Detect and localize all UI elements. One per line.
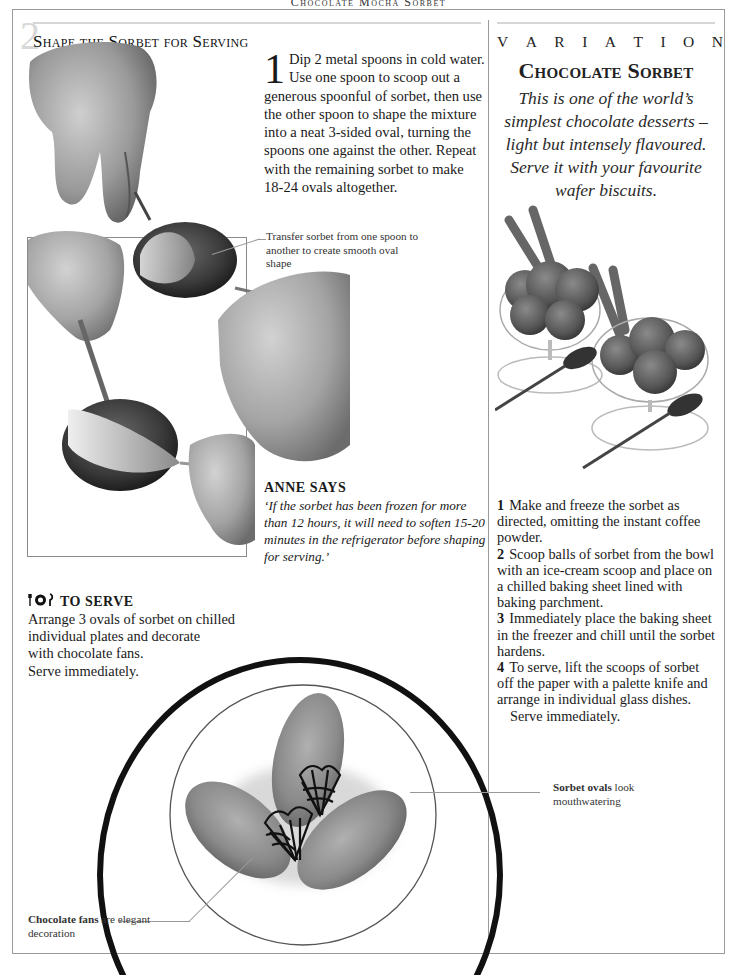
variation-letter: T <box>633 33 642 51</box>
anne-says-quote: ‘If the sorbet has been frozen for more … <box>264 497 489 565</box>
variation-letter: A <box>526 33 537 51</box>
step-instruction: 1 Dip 2 metal spoons in cold water. Use … <box>264 50 486 196</box>
variation-step: 4To serve, lift the scoops of sorbet off… <box>497 659 717 708</box>
step-text: Make and freeze the sorbet as directed, … <box>497 497 700 545</box>
step-num: 2 <box>497 546 504 562</box>
variation-step: 1Make and freeze the sorbet as directed,… <box>497 497 717 546</box>
step-num: 1 <box>497 497 504 513</box>
anne-says-title: ANNE SAYS <box>264 480 346 496</box>
to-serve-heading: TO SERVE <box>28 593 134 611</box>
variation-intro: This is one of the world’s simplest choc… <box>497 87 715 202</box>
variation-step: 3Immediately place the baking sheet in t… <box>497 610 717 659</box>
spoon-callout: Transfer sorbet from one spoon to anothe… <box>266 230 426 271</box>
variation-title: Chocolate Sorbet <box>497 58 715 84</box>
variation-letter: I <box>660 33 665 51</box>
step-text: Immediately place the baking sheet in th… <box>497 610 715 658</box>
step-num: 3 <box>497 610 504 626</box>
variation-letter: O <box>683 33 694 51</box>
sorbet-ovals-callout-line <box>410 792 540 793</box>
section-rule <box>33 22 481 24</box>
variation-label: V A R I A T I O N <box>497 33 723 51</box>
photo-glass-bowls <box>495 200 720 480</box>
instruction-number: 1 <box>264 52 285 86</box>
step-num: 4 <box>497 659 504 675</box>
variation-rule <box>497 22 715 24</box>
place-setting-icon <box>28 593 54 611</box>
callout-bold: Sorbet ovals <box>553 781 612 793</box>
variation-letter: I <box>582 33 587 51</box>
spoon-callout-line-h <box>258 239 266 240</box>
variation-letter: V <box>497 33 508 51</box>
variation-letter: R <box>554 33 564 51</box>
variation-letter: N <box>712 33 723 51</box>
callout-bold: Chocolate fans <box>28 913 99 925</box>
variation-step: 2Scoop balls of sorbet from the bowl wit… <box>497 546 717 611</box>
instruction-text: Dip 2 metal spoons in cold water. Use on… <box>264 51 485 195</box>
step-text: To serve, lift the scoops of sorbet off … <box>497 659 708 707</box>
sorbet-ovals-callout: Sorbet ovals look mouthwatering <box>553 781 683 808</box>
step-text: Scoop balls of sorbet from the bowl with… <box>497 546 714 611</box>
variation-closing: Serve immediately. <box>497 708 717 724</box>
variation-letter: A <box>605 33 616 51</box>
chocolate-fans-callout: Chocolate fans are elegant decoration <box>28 913 158 940</box>
variation-steps: 1Make and freeze the sorbet as directed,… <box>497 497 717 724</box>
to-serve-title: TO SERVE <box>60 594 134 610</box>
